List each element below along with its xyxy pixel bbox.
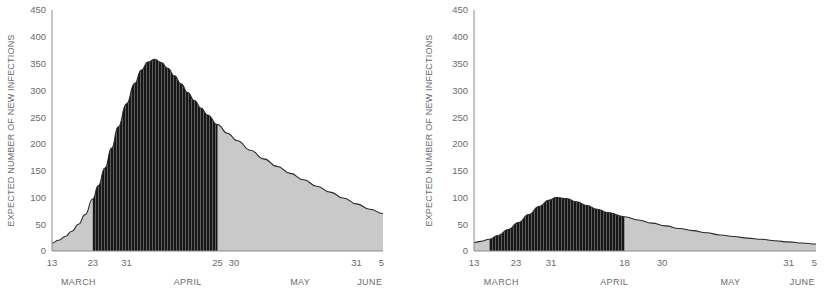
y-tick-label: 50 [457,219,468,230]
month-label: MARCH [484,277,519,287]
y-tick-label: 400 [452,31,468,42]
chart-panel-right: 050100150200250300350400450 132331183031… [412,0,824,295]
x-tick-label: 30 [657,257,668,268]
x-tick-label: 5 [812,257,817,268]
y-tick-label: 50 [35,219,46,230]
area-dark-shading [93,59,218,251]
month-label: APRIL [174,277,202,287]
x-tick-label: 25 [212,257,223,268]
y-tick-label: 400 [30,31,46,42]
month-label: JUNE [790,277,815,287]
y-tick-label: 250 [30,112,46,123]
month-label: MARCH [61,277,96,287]
right-plot-area [474,197,816,251]
y-tick-label: 450 [30,4,46,15]
y-tick-label: 300 [30,85,46,96]
x-tick-label: 31 [783,257,794,268]
y-tick-label: 250 [452,112,468,123]
left-x-tick-labels: 1323312530315 [47,257,384,268]
y-tick-label: 200 [452,138,468,149]
infections-figure: 050100150200250300350400450 132331253031… [0,0,825,295]
y-tick-label: 100 [452,192,468,203]
x-tick-label: 23 [511,257,522,268]
x-tick-label: 23 [87,257,98,268]
right-month-labels: MARCHAPRILMAYJUNE [484,277,815,287]
month-label: JUNE [357,277,382,287]
y-tick-label: 150 [452,165,468,176]
right-y-axis-title: EXPECTED NUMBER OF NEW INFECTIONS [424,34,434,226]
y-tick-label: 350 [30,58,46,69]
month-label: MAY [720,277,740,287]
right-chart-svg: 050100150200250300350400450 132331183031… [412,0,824,295]
left-plot-area [52,59,383,251]
month-label: MAY [290,277,310,287]
right-x-tick-labels: 1323311830315 [469,257,817,268]
x-tick-label: 30 [229,257,240,268]
left-y-tick-labels: 050100150200250300350400450 [30,4,46,256]
month-label: APRIL [600,277,628,287]
left-y-axis-title: EXPECTED NUMBER OF NEW INFECTIONS [6,34,16,226]
right-y-tick-labels: 050100150200250300350400450 [452,4,468,256]
x-tick-label: 13 [47,257,58,268]
x-tick-label: 31 [351,257,362,268]
left-chart-svg: 050100150200250300350400450 132331253031… [0,0,412,295]
y-tick-label: 150 [30,165,46,176]
x-tick-label: 13 [469,257,480,268]
y-tick-label: 100 [30,192,46,203]
x-tick-label: 5 [379,257,384,268]
x-tick-label: 31 [546,257,557,268]
y-tick-label: 450 [452,4,468,15]
x-tick-label: 18 [619,257,630,268]
right-axis-lines [474,10,816,251]
y-tick-label: 0 [41,245,46,256]
x-tick-label: 31 [121,257,132,268]
left-month-labels: MARCHAPRILMAYJUNE [61,277,382,287]
y-tick-label: 350 [452,58,468,69]
y-tick-label: 0 [463,245,468,256]
y-tick-label: 300 [452,85,468,96]
chart-panel-left: 050100150200250300350400450 132331253031… [0,0,412,295]
area-dark-shading [489,197,624,251]
y-tick-label: 200 [30,138,46,149]
